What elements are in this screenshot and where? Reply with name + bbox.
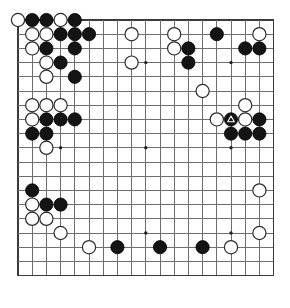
stone-black[interactable]	[68, 28, 81, 41]
star-point	[229, 146, 232, 149]
stone-white[interactable]	[168, 28, 181, 41]
stone-black[interactable]	[68, 13, 81, 26]
stone-black[interactable]	[26, 13, 39, 26]
stone-body	[253, 127, 266, 140]
stone-black[interactable]	[182, 56, 195, 69]
stone-black[interactable]	[68, 42, 81, 55]
stone-black[interactable]	[54, 28, 67, 41]
stone-body	[54, 113, 67, 126]
star-point	[144, 146, 147, 149]
stone-body	[182, 42, 195, 55]
stone-body	[153, 241, 166, 254]
stone-black[interactable]	[182, 42, 195, 55]
stone-black[interactable]	[26, 184, 39, 197]
stone-white[interactable]	[40, 70, 53, 83]
stone-body	[40, 141, 53, 154]
stone-body	[239, 42, 252, 55]
stone-white[interactable]	[82, 241, 95, 254]
stone-body	[253, 226, 266, 239]
stone-body	[26, 99, 39, 112]
stone-white[interactable]	[210, 113, 223, 126]
stone-black[interactable]	[68, 113, 81, 126]
stone-black[interactable]	[40, 42, 53, 55]
stone-white[interactable]	[196, 84, 209, 97]
stone-body	[26, 127, 39, 140]
stone-white[interactable]	[26, 99, 39, 112]
stone-black[interactable]	[253, 113, 266, 126]
stone-body	[239, 127, 252, 140]
stone-body	[68, 13, 81, 26]
stone-body	[26, 42, 39, 55]
stone-body	[68, 28, 81, 41]
stone-white[interactable]	[54, 13, 67, 26]
stone-black[interactable]	[153, 241, 166, 254]
stone-black[interactable]	[196, 241, 209, 254]
stone-white[interactable]	[26, 198, 39, 211]
stone-body	[253, 184, 266, 197]
stone-body	[54, 99, 67, 112]
stone-black[interactable]	[54, 113, 67, 126]
stone-black[interactable]	[40, 113, 53, 126]
stone-body	[40, 212, 53, 225]
stone-white[interactable]	[253, 184, 266, 197]
stone-body	[54, 56, 67, 69]
stone-body	[54, 226, 67, 239]
stone-black[interactable]	[239, 42, 252, 55]
stone-white[interactable]	[253, 28, 266, 41]
stone-black[interactable]	[224, 127, 237, 140]
stone-black[interactable]	[68, 70, 81, 83]
stone-body	[40, 198, 53, 211]
stone-white[interactable]	[224, 241, 237, 254]
stone-white[interactable]	[40, 28, 53, 41]
stone-black[interactable]	[239, 127, 252, 140]
stone-body	[82, 28, 95, 41]
stone-white[interactable]	[40, 56, 53, 69]
stone-black[interactable]	[253, 42, 266, 55]
stone-body	[168, 28, 181, 41]
stone-white[interactable]	[40, 99, 53, 112]
stone-black[interactable]	[54, 56, 67, 69]
stone-white[interactable]	[54, 99, 67, 112]
stone-body	[68, 70, 81, 83]
stone-black[interactable]	[40, 127, 53, 140]
stone-body	[224, 113, 237, 126]
stone-black[interactable]	[111, 241, 124, 254]
stone-white[interactable]	[253, 226, 266, 239]
stone-body	[11, 13, 24, 26]
stone-white[interactable]	[125, 28, 138, 41]
go-board[interactable]	[0, 0, 290, 308]
stone-black[interactable]	[82, 28, 95, 41]
stone-white[interactable]	[239, 113, 252, 126]
stone-white[interactable]	[40, 212, 53, 225]
stone-white[interactable]	[40, 141, 53, 154]
stone-white[interactable]	[11, 13, 24, 26]
stone-body	[68, 113, 81, 126]
stone-white[interactable]	[54, 226, 67, 239]
stone-black[interactable]	[40, 198, 53, 211]
stone-body	[40, 99, 53, 112]
stone-body	[40, 56, 53, 69]
stone-body	[40, 70, 53, 83]
stone-white[interactable]	[26, 113, 39, 126]
stone-body	[168, 42, 181, 55]
go-diagram	[0, 0, 290, 308]
stone-black[interactable]	[224, 113, 237, 126]
stone-white[interactable]	[239, 99, 252, 112]
stone-black[interactable]	[40, 13, 53, 26]
go-board-svg[interactable]	[0, 0, 290, 308]
stone-body	[182, 56, 195, 69]
stone-white[interactable]	[125, 56, 138, 69]
stone-white[interactable]	[26, 28, 39, 41]
stone-body	[253, 113, 266, 126]
stone-body	[196, 241, 209, 254]
stone-white[interactable]	[26, 212, 39, 225]
stone-white[interactable]	[26, 42, 39, 55]
stone-black[interactable]	[54, 198, 67, 211]
stone-black[interactable]	[253, 127, 266, 140]
stone-body	[224, 127, 237, 140]
stone-black[interactable]	[26, 127, 39, 140]
star-point	[144, 61, 147, 64]
stone-white[interactable]	[168, 42, 181, 55]
stone-body	[253, 28, 266, 41]
stone-black[interactable]	[210, 28, 223, 41]
